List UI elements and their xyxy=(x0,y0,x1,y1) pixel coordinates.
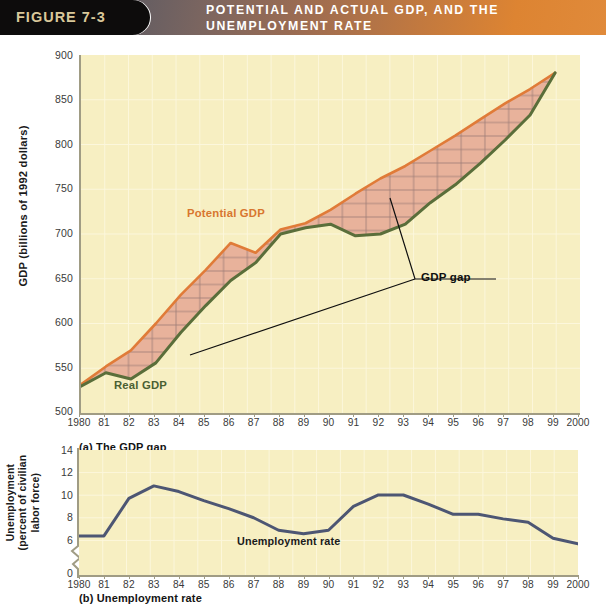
x-tick-mark xyxy=(478,575,479,579)
x-tick-mark xyxy=(378,413,379,417)
unemployment-series-label: Unemployment rate xyxy=(237,535,340,547)
page-footnote-cropped xyxy=(30,604,590,612)
x-tick-mark xyxy=(104,575,105,579)
real-gdp-series-label: Real GDP xyxy=(114,379,167,391)
panel-a-ytick-900: 900 xyxy=(29,49,73,61)
figure-root: POTENTIAL AND ACTUAL GDP, AND THE UNEMPL… xyxy=(0,0,606,612)
panel-a-svg xyxy=(81,55,580,413)
panel-a-ytick-550: 550 xyxy=(29,361,73,373)
panel-b-unemployment: Unemployment (percent of civilian labor … xyxy=(0,440,606,605)
x-tick-mark xyxy=(129,413,130,417)
x-tick-mark xyxy=(428,575,429,579)
panel-a-ytick-800: 800 xyxy=(29,138,73,150)
panel-b-ytick-10: 10 xyxy=(40,489,73,501)
x-tick-mark xyxy=(154,575,155,579)
x-tick-mark xyxy=(428,413,429,417)
panel-a-ytick-850: 850 xyxy=(29,93,73,105)
panel-a-ytick-500: 500 xyxy=(29,405,73,417)
panel-b-y-axis-label-line-3: labor force) xyxy=(30,473,41,533)
panel-b-y-axis-label: Unemployment (percent of civilian labor … xyxy=(5,443,42,563)
panel-a-gdp-gap: GDP (billions of 1992 dollars) 900 850 8… xyxy=(0,40,606,430)
panel-b-svg xyxy=(79,450,578,575)
x-tick-mark xyxy=(304,413,305,417)
x-tick-mark xyxy=(329,413,330,417)
figure-title-line-2: UNEMPLOYMENT RATE xyxy=(206,19,606,35)
x-tick-mark xyxy=(254,575,255,579)
figure-number-pill: FIGURE 7-3 xyxy=(0,0,150,35)
x-tick-mark xyxy=(578,413,579,417)
panel-a-ytick-650: 650 xyxy=(29,272,73,284)
x-tick-mark xyxy=(403,413,404,417)
figure-title: POTENTIAL AND ACTUAL GDP, AND THE UNEMPL… xyxy=(206,3,606,34)
x-tick-mark xyxy=(353,413,354,417)
x-tick-mark xyxy=(104,413,105,417)
x-tick-mark xyxy=(279,413,280,417)
x-tick-mark xyxy=(453,413,454,417)
panel-b-caption: (b) Unemployment rate xyxy=(79,592,202,604)
x-tick-mark xyxy=(353,575,354,579)
figure-header: POTENTIAL AND ACTUAL GDP, AND THE UNEMPL… xyxy=(0,0,606,37)
x-tick-mark xyxy=(378,575,379,579)
panel-b-gridlines xyxy=(79,450,578,575)
panel-b-plot-area: Unemployment rate xyxy=(79,450,578,577)
x-tick-mark xyxy=(478,413,479,417)
panel-a-y-axis-label: GDP (billions of 1992 dollars) xyxy=(17,76,29,336)
x-tick-mark xyxy=(553,413,554,417)
x-tick-mark xyxy=(503,413,504,417)
panel-a-ytick-700: 700 xyxy=(29,227,73,239)
potential-gdp-series-label: Potential GDP xyxy=(187,207,265,219)
panel-a-ytick-600: 600 xyxy=(29,316,73,328)
panel-b-ytick-12: 12 xyxy=(40,466,73,478)
gdp-gap-annotation-label: GDP gap xyxy=(421,271,471,283)
x-tick-mark xyxy=(279,575,280,579)
x-tick-mark xyxy=(503,575,504,579)
panel-b-ytick-6: 6 xyxy=(40,534,73,546)
panel-a-ytick-750: 750 xyxy=(29,182,73,194)
x-tick-mark xyxy=(329,575,330,579)
figure-title-line-1: POTENTIAL AND ACTUAL GDP, AND THE xyxy=(206,3,606,19)
x-tick-mark xyxy=(229,575,230,579)
xtick-2000: 2000 xyxy=(562,417,594,428)
x-tick-mark xyxy=(154,413,155,417)
x-tick-mark xyxy=(204,575,205,579)
x-tick-mark xyxy=(528,413,529,417)
x-tick-mark xyxy=(453,575,454,579)
x-tick-mark xyxy=(403,575,404,579)
panel-b-ytick-14: 14 xyxy=(40,444,73,456)
x-tick-mark xyxy=(129,575,130,579)
panel-b-y-axis-label-line-1: Unemployment xyxy=(5,464,16,541)
x-tick-mark xyxy=(553,575,554,579)
figure-number-label: FIGURE 7-3 xyxy=(16,9,106,25)
x-tick-mark xyxy=(578,575,579,579)
x-tick-mark xyxy=(304,575,305,579)
xtick-2000: 2000 xyxy=(562,579,594,590)
panel-b-ytick-8: 8 xyxy=(40,511,73,523)
x-tick-mark xyxy=(179,575,180,579)
x-tick-mark xyxy=(254,413,255,417)
x-tick-mark xyxy=(79,575,80,579)
x-tick-mark xyxy=(79,413,80,417)
x-tick-mark xyxy=(204,413,205,417)
panel-b-ytick-0: 0 xyxy=(40,567,73,579)
x-tick-mark xyxy=(528,575,529,579)
panel-a-plot-area: Potential GDP Real GDP GDP gap xyxy=(79,55,580,415)
x-tick-mark xyxy=(229,413,230,417)
panel-b-y-axis-label-line-2: (percent of civilian xyxy=(18,455,29,551)
x-tick-mark xyxy=(179,413,180,417)
